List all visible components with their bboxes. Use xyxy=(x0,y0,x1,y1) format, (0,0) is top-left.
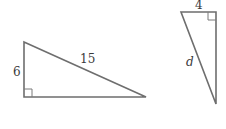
left-triangle: 6 15 xyxy=(13,42,146,97)
leg-label: 6 xyxy=(13,65,21,79)
left-triangle-outline xyxy=(24,42,146,97)
right-angle-marker xyxy=(208,12,216,20)
hypotenuse-label: d xyxy=(186,55,194,69)
diagram: 6 15 4 d xyxy=(0,0,226,129)
hypotenuse-label: 15 xyxy=(80,52,95,66)
leg-label: 4 xyxy=(195,0,203,12)
right-triangle: 4 d xyxy=(181,0,216,104)
right-angle-marker xyxy=(24,89,32,97)
